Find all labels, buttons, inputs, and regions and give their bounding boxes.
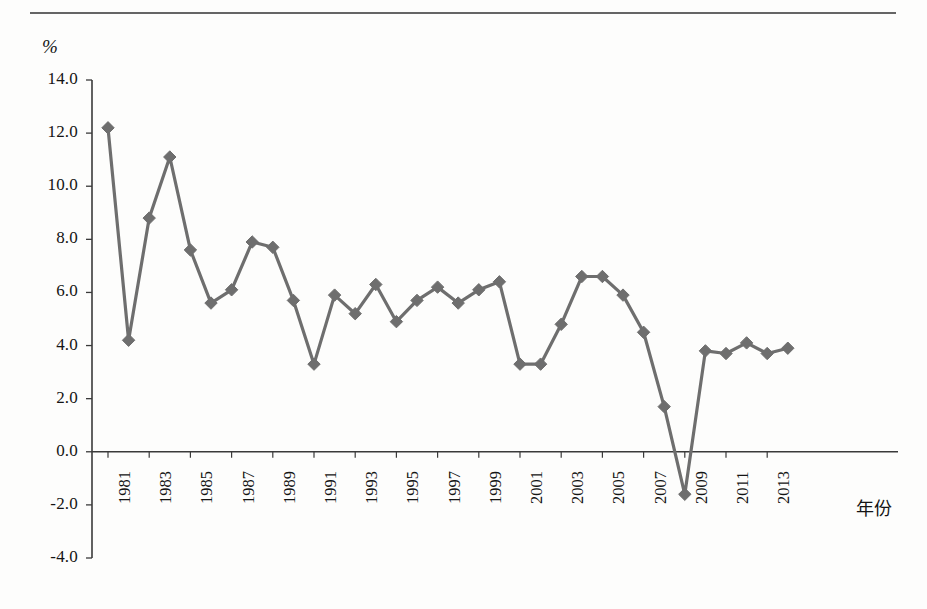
x-axis-title: 年份 xyxy=(856,494,892,520)
y-tick-label: 12.0 xyxy=(16,122,78,142)
y-tick-label: -2.0 xyxy=(16,494,78,514)
x-tick-label: 1991 xyxy=(321,471,341,504)
series-marker-layer xyxy=(102,122,794,501)
y-tick-label: -4.0 xyxy=(16,547,78,567)
y-tick-label: 6.0 xyxy=(16,281,78,301)
y-tick-label: 8.0 xyxy=(16,228,78,248)
x-tick-label: 2003 xyxy=(568,471,588,504)
y-tick-label: 14.0 xyxy=(16,69,78,89)
x-tick-label: 2013 xyxy=(774,471,794,504)
chart-svg xyxy=(0,0,927,609)
line-chart-figure: % 14.012.010.08.06.04.02.00.0-2.0-4.0 19… xyxy=(0,0,927,609)
x-tick-label: 1983 xyxy=(156,471,176,504)
y-tick-label: 2.0 xyxy=(16,388,78,408)
x-tick-label: 2001 xyxy=(527,471,547,504)
x-tick-label: 2005 xyxy=(609,471,629,504)
x-tick-label: 1985 xyxy=(197,471,217,504)
chart-page: % 14.012.010.08.06.04.02.00.0-2.0-4.0 19… xyxy=(0,0,927,609)
x-tick-label: 2011 xyxy=(733,471,753,503)
x-tick-label: 1999 xyxy=(486,471,506,504)
x-tick-label: 2009 xyxy=(692,471,712,504)
x-tick-label: 1995 xyxy=(403,471,423,504)
y-tick-label: 10.0 xyxy=(16,175,78,195)
x-tick-label: 1989 xyxy=(280,471,300,504)
y-tick-label: 0.0 xyxy=(16,441,78,461)
x-tick-label: 1981 xyxy=(115,471,135,504)
x-tick-label: 1993 xyxy=(362,471,382,504)
x-tick-label: 1987 xyxy=(239,471,259,504)
x-tick-label: 1997 xyxy=(445,471,465,504)
y-tick-label: 4.0 xyxy=(16,335,78,355)
x-tick-label: 2007 xyxy=(651,471,671,504)
series-line-layer xyxy=(108,128,788,494)
